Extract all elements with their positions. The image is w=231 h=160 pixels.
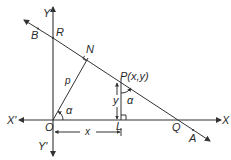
label-dim-y: y [112, 94, 120, 106]
normal-form-line-diagram: Y R B N p P(x,y) y α α X' X O L Q A x Y' [0, 0, 231, 160]
label-L: L [116, 120, 122, 132]
point-R-dot [52, 37, 54, 39]
label-Y-neg: Y' [38, 140, 48, 152]
label-Q: Q [172, 121, 181, 133]
label-B: B [31, 29, 38, 41]
label-Y: Y [43, 7, 51, 19]
line-AB-forward [53, 38, 210, 141]
label-X: X [221, 114, 230, 126]
label-dim-x: x [84, 126, 91, 137]
point-A-dot [192, 129, 194, 131]
label-A: A [188, 132, 196, 144]
label-O: O [45, 121, 54, 133]
label-alpha-O: α [66, 104, 73, 116]
label-N: N [86, 43, 94, 55]
label-X-neg: X' [6, 114, 17, 126]
label-P: P(x,y) [120, 70, 149, 82]
label-p: p [64, 75, 71, 86]
angle-arc-O [58, 112, 63, 121]
label-alpha-P: α [127, 94, 134, 106]
label-R: R [56, 26, 64, 38]
